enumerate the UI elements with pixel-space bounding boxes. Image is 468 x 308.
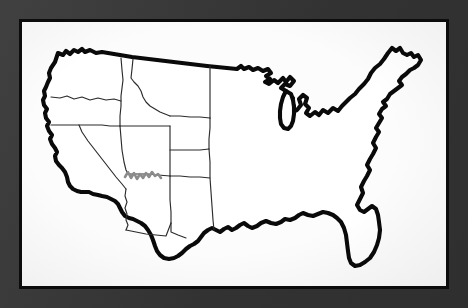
contiguous-us-outline: [43, 48, 421, 266]
map-paper-sheet: [22, 22, 446, 286]
map-photo-frame: [0, 0, 468, 308]
us-outline-map: [22, 22, 446, 286]
lake-michigan-outline: [280, 91, 294, 129]
